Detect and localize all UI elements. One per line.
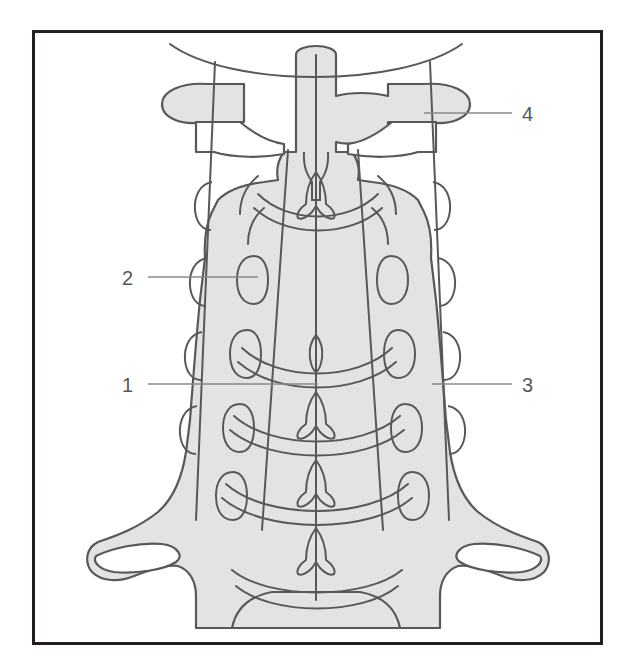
label-1-text: 1 (122, 374, 133, 396)
label-3-text: 3 (522, 374, 533, 396)
label-4-text: 4 (522, 103, 533, 125)
label-2-text: 2 (122, 267, 133, 289)
cervical-spine-ap-diagram: 1 2 3 4 (0, 0, 631, 672)
figure-root: 1 2 3 4 (0, 0, 631, 672)
transverse-process-left (162, 84, 244, 123)
